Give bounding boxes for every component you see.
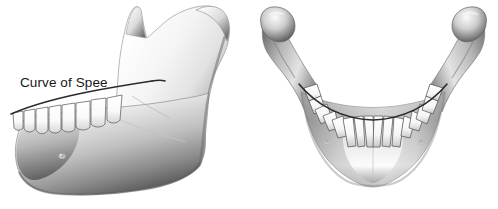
mandible-arch-group bbox=[261, 7, 487, 187]
mental-foramen-right bbox=[418, 140, 424, 144]
curve-of-spee-line-tail bbox=[152, 80, 165, 81]
tooth-canine bbox=[36, 107, 48, 134]
mandible-body-group bbox=[15, 6, 229, 195]
mental-foramen-left bbox=[324, 140, 330, 144]
tooth-incisor-1 bbox=[13, 111, 23, 130]
tooth-premolar-1 bbox=[49, 105, 61, 133]
tooth-incisor-2 bbox=[24, 109, 35, 132]
mental-foramen-highlight bbox=[60, 154, 63, 156]
figure-root: Curve of Spee bbox=[0, 0, 498, 209]
coronoid-process bbox=[126, 7, 146, 38]
mental-foramen bbox=[59, 153, 66, 158]
tooth-molar-1 bbox=[76, 101, 90, 130]
mandible-anterior-illustration bbox=[249, 0, 498, 209]
tooth-molar-2 bbox=[91, 98, 106, 127]
mandible-lateral-illustration bbox=[0, 0, 249, 209]
tooth-premolar-2 bbox=[62, 103, 75, 132]
panel-curve-of-wilson: Curve of Wilson bbox=[249, 0, 498, 209]
tooth-molar-3 bbox=[107, 95, 122, 123]
caption-curve-of-spee: Curve of Spee bbox=[20, 76, 108, 90]
panel-curve-of-spee: Curve of Spee bbox=[0, 0, 249, 209]
